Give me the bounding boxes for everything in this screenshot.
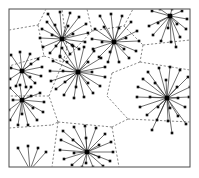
leaf-node: [83, 96, 86, 99]
hub-node: bottom-center-hub: [85, 150, 90, 155]
leaf-node: [34, 82, 37, 85]
leaf-node: [52, 60, 55, 63]
leaf-node: [17, 124, 20, 127]
leaf-node: [98, 144, 101, 147]
leaf-node: [84, 41, 87, 44]
figure-root: top-left-hubtop-center-hubtop-right-hubl…: [0, 0, 199, 178]
leaf-node: [160, 40, 163, 43]
leaf-node: [78, 48, 81, 51]
leaf-node: [128, 57, 131, 60]
leaf-node: [59, 11, 62, 14]
leaf-node: [55, 88, 58, 91]
leaf-node: [121, 15, 124, 18]
leaf-node: [110, 13, 113, 16]
leaf-node: [146, 114, 149, 117]
leaf-node: [72, 45, 75, 48]
leaf-node: [19, 84, 22, 87]
leaf-node: [37, 147, 40, 150]
hub-node: top-center-hub: [112, 40, 117, 45]
leaf-node: [157, 106, 160, 109]
leaf-node: [30, 95, 33, 98]
leaf-node: [136, 30, 139, 33]
leaf-node: [95, 127, 98, 130]
leaf-node: [30, 86, 33, 89]
leaf-node: [138, 40, 141, 43]
leaf-node: [148, 25, 151, 28]
leaf-node: [185, 123, 188, 126]
leaf-node: [39, 92, 42, 95]
leaf-node: [169, 66, 172, 69]
leaf-node: [152, 34, 155, 37]
leaf-node: [87, 82, 90, 85]
leaf-node: [49, 70, 52, 73]
leaf-node: [87, 32, 90, 35]
leaf-node: [12, 99, 15, 102]
leaf-node: [87, 61, 90, 64]
leaf-node: [156, 119, 159, 122]
hub-node: bottom-left-stub-hub: [28, 168, 33, 173]
leaf-node: [151, 10, 154, 13]
hub-node: left-lower-hub: [20, 98, 25, 103]
leaf-node: [51, 34, 54, 37]
leaf-node: [85, 162, 88, 165]
leaf-node: [37, 58, 40, 61]
leaf-node: [73, 97, 76, 100]
leaf-node: [42, 111, 45, 114]
leaf-node: [47, 13, 50, 16]
leaf-node: [176, 23, 179, 26]
leaf-node: [165, 79, 168, 82]
leaf-node: [72, 33, 75, 36]
leaf-node: [63, 94, 66, 97]
leaf-node: [30, 63, 33, 66]
leaf-node: [41, 66, 44, 69]
leaf-node: [123, 48, 126, 51]
leaf-node: [49, 52, 52, 55]
leaf-node: [176, 86, 179, 89]
leaf-node: [104, 66, 107, 69]
leaf-node: [177, 115, 180, 118]
leaf-node: [99, 85, 102, 88]
leaf-node: [101, 41, 104, 44]
leaf-node: [60, 139, 63, 142]
leaf-node: [154, 82, 157, 85]
plot-frame: [9, 9, 190, 167]
leaf-node: [179, 36, 182, 39]
hub-node: right-hub: [165, 96, 170, 101]
leaf-node: [59, 149, 62, 152]
leaf-node: [139, 106, 142, 109]
leaf-node: [36, 119, 39, 122]
leaf-node: [10, 54, 13, 57]
leaf-node: [149, 96, 152, 99]
leaf-node: [29, 53, 32, 56]
leaf-node: [142, 78, 145, 81]
leaf-node: [118, 27, 121, 30]
leaf-node: [64, 81, 67, 84]
leaf-node: [17, 147, 20, 150]
leaf-node: [40, 75, 43, 78]
leaf-node: [167, 120, 170, 123]
leaf-node: [50, 80, 53, 83]
hub-node: top-right-hub: [168, 14, 173, 19]
leaf-node: [167, 27, 170, 30]
leaf-node: [27, 124, 30, 127]
leaf-node: [19, 51, 22, 54]
leaf-node: [94, 28, 97, 31]
leaf-node: [55, 45, 58, 48]
leaf-node: [10, 67, 13, 70]
leaf-node: [169, 107, 172, 110]
leaf-node: [175, 46, 178, 49]
leaf-node: [66, 61, 69, 64]
leaf-node: [125, 37, 128, 40]
leaf-node: [85, 137, 88, 140]
leaf-node: [42, 46, 45, 49]
leaf-node: [67, 25, 70, 28]
leaf-node: [151, 129, 154, 132]
leaf-node: [69, 12, 72, 15]
leaf-node: [62, 70, 65, 73]
leaf-node: [29, 76, 32, 79]
leaf-node: [177, 97, 180, 100]
leaf-node: [103, 26, 106, 29]
leaf-node: [91, 71, 94, 74]
leaf-node: [83, 46, 86, 49]
leaf-node: [186, 18, 189, 21]
